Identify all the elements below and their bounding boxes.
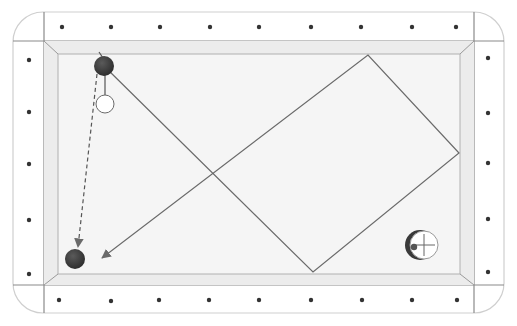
diamond-marker	[309, 298, 313, 302]
diamond-marker	[157, 298, 161, 302]
diamond-marker	[27, 162, 31, 166]
diamond-marker	[486, 161, 490, 165]
cue-ball	[96, 95, 114, 113]
spin-contact-dot	[411, 244, 417, 250]
diamond-marker	[410, 25, 414, 29]
diamond-marker	[359, 25, 363, 29]
diamond-marker	[109, 25, 113, 29]
diamond-marker	[410, 298, 414, 302]
diamond-marker	[158, 25, 162, 29]
diamond-marker	[257, 25, 261, 29]
table-cloth	[58, 54, 460, 274]
diamond-marker	[486, 111, 490, 115]
diamond-marker	[207, 298, 211, 302]
diamond-marker	[57, 298, 61, 302]
diamond-marker	[27, 218, 31, 222]
diamond-marker	[455, 298, 459, 302]
diamond-marker	[486, 56, 490, 60]
diamond-marker	[360, 298, 364, 302]
diamond-marker	[454, 25, 458, 29]
object-ball-target	[65, 249, 85, 269]
diamond-marker	[27, 58, 31, 62]
diamond-marker	[309, 25, 313, 29]
diamond-marker	[109, 299, 113, 303]
diamond-marker	[486, 217, 490, 221]
object-ball-start	[94, 56, 114, 76]
diamond-marker	[60, 25, 64, 29]
diamond-marker	[27, 110, 31, 114]
spin-indicator-icon	[405, 230, 438, 260]
diamond-marker	[486, 270, 490, 274]
billiards-table-diagram	[0, 0, 517, 326]
diamond-marker	[257, 298, 261, 302]
diamond-marker	[27, 272, 31, 276]
diamond-marker	[208, 25, 212, 29]
